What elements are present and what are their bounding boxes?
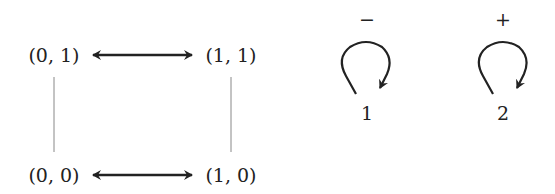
node-1-0: (1, 0) <box>205 164 256 186</box>
node-0-1: (0, 1) <box>28 44 79 66</box>
loop-2 <box>479 42 527 94</box>
loop-label-2: 2 <box>497 102 509 124</box>
node-0-0: (0, 0) <box>28 164 79 186</box>
node-1-1: (1, 1) <box>205 44 256 66</box>
sign-minus: − <box>359 8 375 30</box>
diagram-canvas <box>0 0 555 194</box>
loop-1 <box>342 42 390 94</box>
loop-label-1: 1 <box>361 102 373 124</box>
sign-plus: + <box>495 8 511 30</box>
